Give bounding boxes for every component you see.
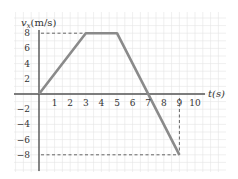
x-tick-labels: 12345678910 — [52, 98, 201, 108]
x-tick-label: 8 — [161, 98, 167, 108]
x-tick-label: 1 — [52, 98, 58, 108]
velocity-time-chart: 12345678910 8642−2−4−6−8 vx(m/s) t(s) — [0, 0, 238, 179]
x-tick-label: 2 — [67, 98, 73, 108]
x-tick-label: 3 — [83, 98, 89, 108]
y-tick-label: 6 — [24, 43, 30, 53]
y-tick-label: 2 — [24, 74, 30, 84]
x-axis-label: t(s) — [208, 88, 225, 99]
x-tick-label: 10 — [189, 98, 201, 108]
y-tick-label: 4 — [24, 59, 30, 69]
x-tick-label: 9 — [177, 98, 183, 108]
x-tick-label: 6 — [130, 98, 136, 108]
x-tick-label: 5 — [114, 98, 120, 108]
y-tick-label: −6 — [17, 135, 31, 145]
x-tick-label: 4 — [99, 98, 105, 108]
y-tick-label: −2 — [17, 104, 30, 114]
y-tick-label: −4 — [17, 119, 31, 129]
x-tick-label: 7 — [145, 98, 151, 108]
y-label-unit: (m/s) — [31, 17, 57, 28]
grid — [14, 12, 226, 172]
y-tick-label: −8 — [17, 150, 31, 160]
